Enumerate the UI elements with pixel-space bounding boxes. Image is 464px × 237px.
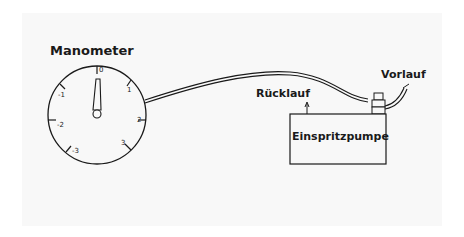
manometer-dial: [48, 66, 146, 164]
tick-label-minus-2: -2: [57, 121, 64, 129]
return-arrow: [305, 102, 309, 114]
pump-fitting: [372, 93, 385, 114]
gauge-title: Manometer: [50, 43, 134, 58]
supply-line: [385, 84, 409, 109]
tick-label-0: 0: [99, 66, 103, 74]
supply-line-label: Vorlauf: [381, 68, 426, 81]
tick-label-2: 2: [137, 116, 141, 124]
tick-label-3: 3: [121, 139, 125, 147]
tick-label-minus-3: -3: [72, 147, 79, 155]
return-line-label: Rücklauf: [256, 87, 310, 100]
pump-label: Einspritzpumpe: [292, 130, 386, 143]
tick-label-minus-1: -1: [58, 91, 65, 99]
diagram-drawing: [0, 0, 464, 237]
tick-label-1: 1: [127, 86, 131, 94]
